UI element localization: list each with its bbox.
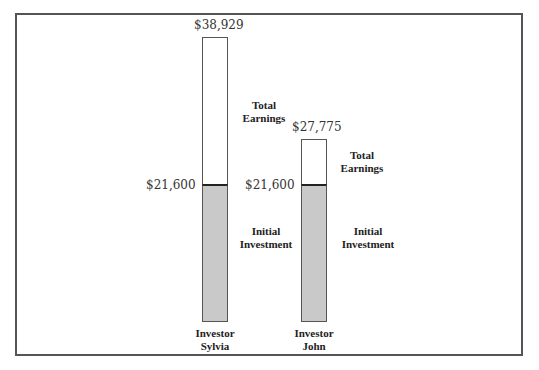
john-earnings-bar [301,139,327,186]
sylvia-earnings-bar [202,37,228,186]
sylvia-initial-value: $21,600 [146,178,196,192]
john-initial-label: Initial Investment [328,225,408,251]
john-initial-value: $21,600 [245,178,295,192]
sylvia-category-label: Investor Sylvia [185,327,245,353]
john-total-value: $27,775 [292,120,342,134]
sylvia-total-value: $38,929 [194,18,244,32]
john-earnings-label: Total Earnings [332,149,392,175]
john-initial-bar [301,184,327,322]
sylvia-earnings-label: Total Earnings [234,99,294,125]
sylvia-initial-label: Initial Investment [226,225,306,251]
sylvia-initial-bar [202,184,228,322]
john-category-label: Investor John [284,327,344,353]
